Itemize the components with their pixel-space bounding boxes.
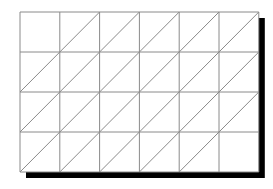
triangulated-grid-diagram xyxy=(0,0,273,189)
